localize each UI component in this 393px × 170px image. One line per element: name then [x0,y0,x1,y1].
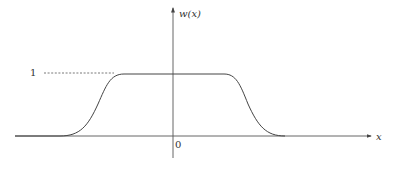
y-axis-label: w(x) [179,8,201,19]
plateau-curve [15,74,285,136]
plateau-function-diagram: w(x) x 0 1 [0,0,393,170]
level-one-label: 1 [30,67,36,78]
x-axis-label: x [376,131,382,142]
origin-label: 0 [175,139,181,150]
